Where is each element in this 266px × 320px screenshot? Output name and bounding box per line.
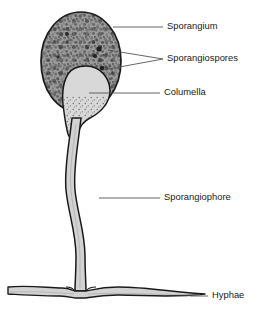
label-sporangiophore: Sporangiophore [164, 191, 231, 202]
sporangiophore-body [66, 118, 86, 291]
columella-structure [60, 66, 114, 142]
label-sporangium: Sporangium [167, 20, 218, 31]
sporangium-diagram-figure: Sporangium Sporangiospores Columella Spo… [0, 0, 266, 320]
label-columella: Columella [164, 86, 206, 97]
diagram-canvas: Sporangium Sporangiospores Columella Spo… [0, 0, 266, 320]
label-sporangiospores: Sporangiospores [167, 52, 238, 63]
sporangiophore-structure [66, 118, 86, 291]
hyphae-structure [8, 286, 205, 298]
label-hyphae: Hyphae [212, 289, 244, 300]
